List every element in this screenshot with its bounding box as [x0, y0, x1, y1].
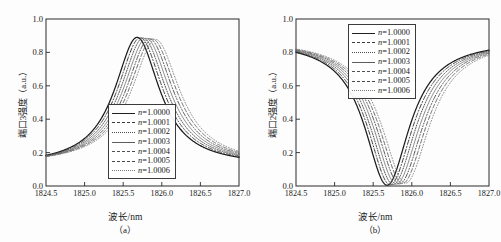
y-tick-label: 0.4	[21, 114, 43, 124]
legend-item: n=1.0006	[352, 86, 411, 96]
x-tick-label: 1826.5	[189, 189, 212, 198]
legend-line-sample	[112, 166, 135, 174]
legend-label: n=1.0006	[378, 86, 410, 95]
panel-b: 端口2强度（a.u.） 波长/nm （b） n=1.0000n=1.0001n=…	[250, 0, 500, 242]
legend-item: n=1.0006	[112, 166, 171, 176]
legend-line-sample	[352, 86, 375, 94]
x-tick-label: 1827.0	[228, 189, 251, 198]
panel-a: 端口3强度（a.u.） 波长/nm （a） n=1.0000n=1.0001n=…	[0, 0, 250, 242]
y-tick-label: 0.8	[21, 47, 43, 57]
legend-item: n=1.0004	[112, 146, 171, 156]
legend-item: n=1.0000	[112, 108, 171, 118]
x-tick-label: 1825.5	[362, 189, 385, 198]
legend-label: n=1.0003	[138, 137, 170, 146]
subcaption-a: （a）	[0, 223, 250, 236]
legend-item: n=1.0004	[352, 66, 411, 76]
y-tick-label: 0.0	[271, 181, 293, 191]
x-axis-title-a: 波长/nm	[0, 209, 250, 223]
x-tick-label: 1827.0	[478, 189, 501, 198]
y-tick-label: 0.0	[21, 181, 43, 191]
legend-a: n=1.0000n=1.0001n=1.0002n=1.0003n=1.0004…	[108, 104, 176, 179]
legend-item: n=1.0003	[352, 57, 411, 67]
y-tick-label: 0.6	[21, 81, 43, 91]
y-tick-label: 0.2	[271, 148, 293, 158]
y-tick-label: 1.0	[21, 14, 43, 24]
legend-item: n=1.0001	[352, 38, 411, 48]
x-tick-label: 1825.5	[112, 189, 135, 198]
x-tick-label: 1825.0	[323, 189, 346, 198]
y-tick-label: 0.6	[271, 81, 293, 91]
x-tick-label: 1826.0	[151, 189, 174, 198]
legend-item: n=1.0001	[112, 118, 171, 128]
figure-container: 端口3强度（a.u.） 波长/nm （a） n=1.0000n=1.0001n=…	[0, 0, 501, 242]
x-tick-label: 1826.5	[439, 189, 462, 198]
legend-line-sample	[112, 138, 135, 146]
legend-item: n=1.0005	[352, 76, 411, 86]
legend-line-sample	[112, 118, 135, 126]
y-tick-label: 0.2	[21, 148, 43, 158]
x-tick-label: 1826.0	[401, 189, 424, 198]
legend-label: n=1.0001	[378, 38, 410, 47]
legend-line-sample	[352, 58, 375, 66]
y-tick-label: 0.8	[271, 47, 293, 57]
legend-line-sample	[352, 67, 375, 75]
legend-line-sample	[112, 109, 135, 117]
legend-label: n=1.0001	[138, 118, 170, 127]
y-tick-label: 1.0	[271, 14, 293, 24]
x-axis-title-b: 波长/nm	[250, 209, 500, 223]
legend-line-sample	[352, 29, 375, 37]
legend-b: n=1.0000n=1.0001n=1.0002n=1.0003n=1.0004…	[348, 24, 416, 99]
legend-label: n=1.0000	[138, 108, 170, 117]
legend-line-sample	[112, 157, 135, 165]
legend-label: n=1.0005	[378, 76, 410, 85]
legend-label: n=1.0003	[378, 57, 410, 66]
legend-label: n=1.0004	[378, 67, 410, 76]
subcaption-b: （b）	[250, 223, 500, 236]
legend-item: n=1.0002	[112, 127, 171, 137]
legend-item: n=1.0003	[112, 137, 171, 147]
legend-item: n=1.0000	[352, 28, 411, 38]
legend-label: n=1.0002	[378, 47, 410, 56]
x-tick-label: 1825.0	[73, 189, 96, 198]
legend-label: n=1.0004	[138, 147, 170, 156]
legend-line-sample	[352, 48, 375, 56]
y-tick-label: 0.4	[271, 114, 293, 124]
legend-label: n=1.0005	[138, 156, 170, 165]
legend-item: n=1.0005	[112, 156, 171, 166]
legend-item: n=1.0002	[352, 47, 411, 57]
legend-label: n=1.0002	[138, 127, 170, 136]
legend-line-sample	[112, 128, 135, 136]
legend-line-sample	[112, 147, 135, 155]
legend-label: n=1.0000	[378, 28, 410, 37]
legend-line-sample	[352, 77, 375, 85]
legend-line-sample	[352, 38, 375, 46]
legend-label: n=1.0006	[138, 166, 170, 175]
